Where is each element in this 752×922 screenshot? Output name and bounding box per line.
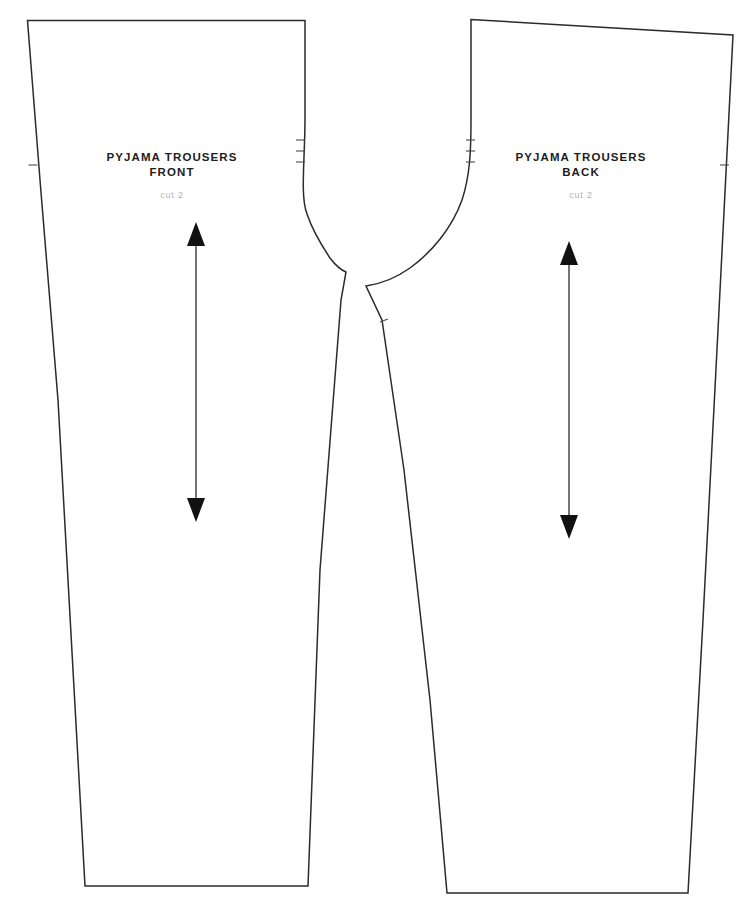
front-piece-view: FRONT bbox=[149, 166, 194, 178]
pattern-canvas: PYJAMA TROUSERS FRONT cut 2 PYJAMA TROUS… bbox=[0, 0, 752, 922]
back-piece-title: PYJAMA TROUSERS bbox=[515, 151, 646, 163]
back-piece-view: BACK bbox=[562, 166, 600, 178]
front-piece-cut-count: cut 2 bbox=[160, 190, 184, 200]
back-piece-cut-count: cut 2 bbox=[569, 190, 593, 200]
pattern-piece-front: PYJAMA TROUSERS FRONT cut 2 bbox=[28, 21, 347, 887]
pattern-piece-back: PYJAMA TROUSERS BACK cut 2 bbox=[366, 20, 733, 894]
pattern-sheet: PYJAMA TROUSERS FRONT cut 2 PYJAMA TROUS… bbox=[0, 0, 752, 922]
front-piece-title: PYJAMA TROUSERS bbox=[106, 151, 237, 163]
